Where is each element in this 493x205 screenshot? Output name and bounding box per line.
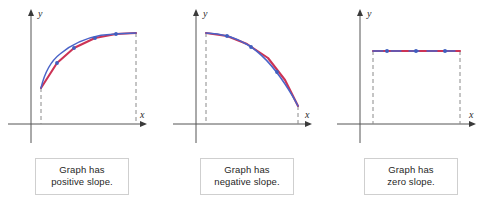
curve-point [249,45,253,49]
plot-zero-slope: y x [329,0,493,150]
curve-point [114,32,118,36]
y-axis-arrow-icon [28,9,34,16]
plot-negative-slope: y x [165,0,329,150]
panel-positive-slope: y x Graph has positive slope. [0,0,164,205]
secant-polyline [206,33,298,106]
curve-point [72,46,76,50]
x-axis-arrow-icon [469,121,476,127]
x-axis-label: x [468,109,474,120]
y-axis-label: y [37,8,43,19]
curve-point [55,61,59,65]
plot-svg-negative: y x [165,0,329,150]
secant-polyline [41,33,136,88]
caption-box-negative-slope: Graph has negative slope. [200,158,294,195]
curve-point [275,70,279,74]
y-axis-arrow-icon [357,9,363,16]
caption-line-1: Graph has [38,164,126,176]
caption-line-1: Graph has [367,164,455,176]
curve-point [414,49,418,53]
function-curve [206,33,298,106]
curve-point [93,36,97,40]
x-axis-arrow-icon [305,121,312,127]
caption-line-1: Graph has [203,164,291,176]
curve-point [385,49,389,53]
caption-line-2: positive slope. [38,176,126,188]
curve-point [443,49,447,53]
panel-zero-slope: y x Graph has zero slope. [329,0,493,205]
caption-box-zero-slope: Graph has zero slope. [364,158,458,195]
caption-box-positive-slope: Graph has positive slope. [35,158,129,195]
x-axis-arrow-icon [140,121,147,127]
slope-illustration-figure: y x Graph has positive slope. [0,0,493,205]
y-axis-arrow-icon [193,9,199,16]
caption-line-2: negative slope. [203,176,291,188]
x-axis-label: x [304,109,310,120]
plot-svg-zero: y x [329,0,493,150]
plot-svg-positive: y x [0,0,164,150]
x-axis-label: x [139,109,145,120]
curve-point [225,34,229,38]
plot-positive-slope: y x [0,0,164,150]
y-axis-label: y [366,8,372,19]
caption-line-2: zero slope. [367,176,455,188]
panel-negative-slope: y x Graph has negative slope. [165,0,329,205]
y-axis-label: y [202,8,208,19]
